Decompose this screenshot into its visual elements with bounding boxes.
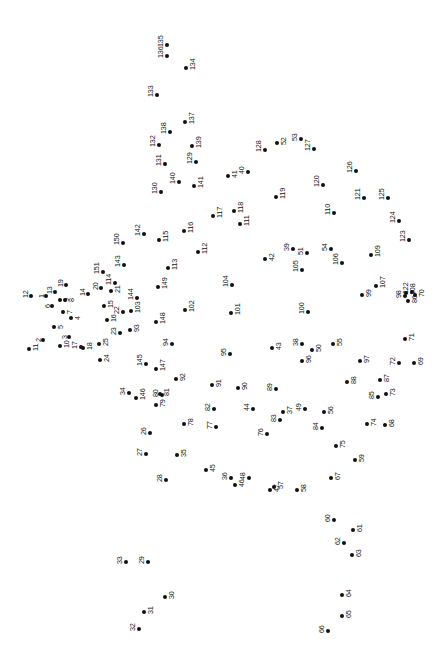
dot-label: 74 xyxy=(370,418,377,426)
puzzle-dot[interactable] xyxy=(157,143,161,147)
puzzle-dot[interactable] xyxy=(376,395,380,399)
dot-label: 46 xyxy=(238,479,245,487)
dot-label: 90 xyxy=(241,382,248,390)
puzzle-dot[interactable] xyxy=(142,232,146,236)
puzzle-dot[interactable] xyxy=(144,452,148,456)
puzzle-dot[interactable] xyxy=(303,407,307,411)
dot-label: 25 xyxy=(102,338,109,346)
puzzle-dot[interactable] xyxy=(165,54,169,58)
puzzle-dot[interactable] xyxy=(155,93,159,97)
puzzle-dot[interactable] xyxy=(159,190,163,194)
puzzle-dot[interactable] xyxy=(163,162,167,166)
dot-label: 114 xyxy=(105,274,112,285)
dot-label: 49 xyxy=(295,403,302,411)
dot-label: 131 xyxy=(155,154,162,166)
puzzle-dot[interactable] xyxy=(165,43,169,47)
puzzle-dot[interactable] xyxy=(146,560,150,564)
puzzle-dot[interactable] xyxy=(121,241,125,245)
puzzle-dot[interactable] xyxy=(137,627,141,631)
puzzle-dot[interactable] xyxy=(342,541,346,545)
puzzle-dot[interactable] xyxy=(168,130,172,134)
puzzle-dot[interactable] xyxy=(386,196,390,200)
dot-label: 99 xyxy=(365,289,372,297)
puzzle-dot[interactable] xyxy=(312,147,316,151)
dot-label: 121 xyxy=(354,188,361,200)
dot-label: 91 xyxy=(215,379,222,387)
dot-label: 60 xyxy=(324,514,331,522)
dot-label: 33 xyxy=(116,556,123,564)
puzzle-dot[interactable] xyxy=(212,407,216,411)
dot-label: 4 xyxy=(74,316,81,320)
dot-label: 124 xyxy=(389,211,396,223)
puzzle-dot[interactable] xyxy=(121,310,125,314)
puzzle-dot[interactable] xyxy=(329,247,333,251)
puzzle-dot[interactable] xyxy=(124,560,128,564)
puzzle-dot[interactable] xyxy=(170,342,174,346)
puzzle-dot[interactable] xyxy=(321,183,325,187)
puzzle-dot[interactable] xyxy=(122,263,126,267)
dot-label: 110 xyxy=(324,204,331,215)
puzzle-dot[interactable] xyxy=(246,170,250,174)
dot-label: 12 xyxy=(22,290,29,298)
dot-label: 78 xyxy=(187,418,194,426)
puzzle-dot[interactable] xyxy=(332,518,336,522)
dot-label: 39 xyxy=(283,243,290,251)
puzzle-dot[interactable] xyxy=(354,169,358,173)
puzzle-dot[interactable] xyxy=(291,247,295,251)
dot-label: 145 xyxy=(136,354,143,366)
puzzle-dot[interactable] xyxy=(135,296,139,300)
dot-label: 72 xyxy=(389,357,396,365)
dot-label: 71 xyxy=(408,333,415,341)
puzzle-dot[interactable] xyxy=(194,160,198,164)
puzzle-dot[interactable] xyxy=(407,238,411,242)
dot-label: 51 xyxy=(297,247,304,255)
puzzle-dot[interactable] xyxy=(127,391,131,395)
puzzle-dot[interactable] xyxy=(251,407,255,411)
dot-label: 79 xyxy=(159,399,166,407)
puzzle-dot[interactable] xyxy=(214,425,218,429)
dot-label: 95 xyxy=(220,348,227,356)
puzzle-dot[interactable] xyxy=(265,432,269,436)
puzzle-dot[interactable] xyxy=(164,478,168,482)
dot-label: 9 xyxy=(63,298,70,302)
puzzle-dot[interactable] xyxy=(263,148,267,152)
puzzle-dot[interactable] xyxy=(326,629,330,633)
puzzle-dot[interactable] xyxy=(300,342,304,346)
puzzle-dot[interactable] xyxy=(230,283,234,287)
dot-label: 147 xyxy=(159,359,166,371)
puzzle-dot[interactable] xyxy=(118,331,122,335)
puzzle-dot[interactable] xyxy=(229,476,233,480)
puzzle-dot[interactable] xyxy=(300,268,304,272)
puzzle-dot[interactable] xyxy=(320,426,324,430)
dot-label: 96 xyxy=(305,355,312,363)
dot-label: 141 xyxy=(197,176,204,188)
dot-label: 41 xyxy=(231,170,238,178)
puzzle-dot[interactable] xyxy=(397,361,401,365)
dot-label: 77 xyxy=(206,421,213,429)
puzzle-dot[interactable] xyxy=(177,180,181,184)
puzzle-dot[interactable] xyxy=(148,431,152,435)
puzzle-dot[interactable] xyxy=(247,476,251,480)
puzzle-dot[interactable] xyxy=(144,362,148,366)
dot-label: 5 xyxy=(57,325,64,329)
dot-label: 23 xyxy=(110,327,117,335)
dot-label: 106 xyxy=(332,253,339,265)
dot-label: 102 xyxy=(188,300,195,312)
puzzle-dot[interactable] xyxy=(278,418,282,422)
dot-label: 120 xyxy=(313,175,320,187)
dot-label: 138 xyxy=(160,122,167,134)
puzzle-dot[interactable] xyxy=(332,211,336,215)
puzzle-dot[interactable] xyxy=(306,310,310,314)
dot-label: 85 xyxy=(368,391,375,399)
puzzle-dot[interactable] xyxy=(340,261,344,265)
dot-label: 136 xyxy=(157,46,164,58)
dot-label: 70 xyxy=(418,289,425,297)
puzzle-dot[interactable] xyxy=(362,196,366,200)
dot-label: 151 xyxy=(93,262,100,274)
puzzle-dot[interactable] xyxy=(228,352,232,356)
dot-label: 100 xyxy=(298,302,305,314)
dot-label: 149 xyxy=(161,277,168,289)
puzzle-dot[interactable] xyxy=(305,251,309,255)
puzzle-dot[interactable] xyxy=(274,387,278,391)
puzzle-dot[interactable] xyxy=(397,219,401,223)
